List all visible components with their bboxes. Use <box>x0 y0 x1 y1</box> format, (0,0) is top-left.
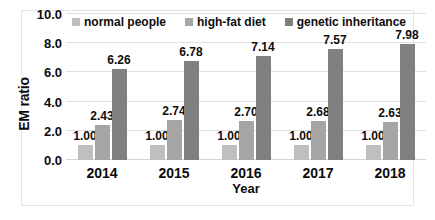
bar-value-label: 1.00 <box>73 130 96 142</box>
bar-slot: 7.14 <box>256 14 271 160</box>
bar-value-label: 7.57 <box>323 34 346 46</box>
bar <box>256 56 271 160</box>
x-axis-tick-label: 2017 <box>282 166 354 181</box>
bar-value-label: 7.98 <box>395 29 418 41</box>
bar-value-label: 2.70 <box>234 106 257 118</box>
bar-value-label: 2.68 <box>306 106 329 118</box>
y-axis-tick-labels: 10.08.06.04.02.00.0 <box>18 0 62 220</box>
bar-slot: 6.78 <box>184 14 199 160</box>
bar-group: 1.002.687.57 <box>282 14 354 160</box>
x-axis-tick-label: 2016 <box>210 166 282 181</box>
bar <box>400 44 415 161</box>
y-axis-tick-label: 0.0 <box>22 154 62 167</box>
y-axis-tick-label: 4.0 <box>22 95 62 108</box>
x-axis-tick-label: 2015 <box>138 166 210 181</box>
bar <box>167 120 182 160</box>
bar-chart: EM ratio 10.08.06.04.02.00.0 normal peop… <box>0 0 435 220</box>
bar <box>184 61 199 160</box>
bar-value-label: 2.63 <box>378 107 401 119</box>
bar-slot: 1.00 <box>366 14 381 160</box>
bar <box>328 49 343 160</box>
bar-slot: 1.00 <box>294 14 309 160</box>
y-axis-tick-label: 10.0 <box>22 8 62 21</box>
bar-slot: 2.70 <box>239 14 254 160</box>
bar-value-label: 2.74 <box>162 105 185 117</box>
bar-slot: 2.74 <box>167 14 182 160</box>
bar-slot: 1.00 <box>78 14 93 160</box>
bar <box>239 121 254 160</box>
bar-group: 1.002.436.26 <box>66 14 138 160</box>
bar <box>95 125 110 160</box>
bar-slot: 1.00 <box>222 14 237 160</box>
x-axis-tick-labels: 20142015201620172018 <box>66 166 426 181</box>
bar-slot: 7.57 <box>328 14 343 160</box>
bar-group: 1.002.746.78 <box>138 14 210 160</box>
bar-group: 1.002.637.98 <box>354 14 426 160</box>
bar-value-label: 1.00 <box>289 130 312 142</box>
bar-value-label: 7.14 <box>251 41 274 53</box>
bar <box>112 69 127 160</box>
bar <box>366 145 381 160</box>
bar-groups: 1.002.436.261.002.746.781.002.707.141.00… <box>66 14 426 160</box>
plot-area: 1.002.436.261.002.746.781.002.707.141.00… <box>66 14 426 160</box>
x-axis-title: Year <box>66 182 426 195</box>
y-axis-tick-label: 2.0 <box>22 124 62 137</box>
bar <box>294 145 309 160</box>
bar-value-label: 1.00 <box>145 130 168 142</box>
bar <box>222 145 237 160</box>
bar-group: 1.002.707.14 <box>210 14 282 160</box>
x-axis-tick-label: 2018 <box>354 166 426 181</box>
bar <box>383 122 398 160</box>
bar-value-label: 1.00 <box>217 130 240 142</box>
bar-slot: 7.98 <box>400 14 415 160</box>
bar-slot: 2.43 <box>95 14 110 160</box>
y-axis-tick-label: 8.0 <box>22 37 62 50</box>
bar <box>78 145 93 160</box>
bar-slot: 6.26 <box>112 14 127 160</box>
bar-slot: 1.00 <box>150 14 165 160</box>
bar <box>150 145 165 160</box>
bar-value-label: 2.43 <box>90 110 113 122</box>
y-axis-tick-label: 6.0 <box>22 66 62 79</box>
bar-value-label: 1.00 <box>361 130 384 142</box>
x-axis-tick-label: 2014 <box>66 166 138 181</box>
bar <box>311 121 326 160</box>
bar-value-label: 6.26 <box>107 54 130 66</box>
bar-value-label: 6.78 <box>179 46 202 58</box>
